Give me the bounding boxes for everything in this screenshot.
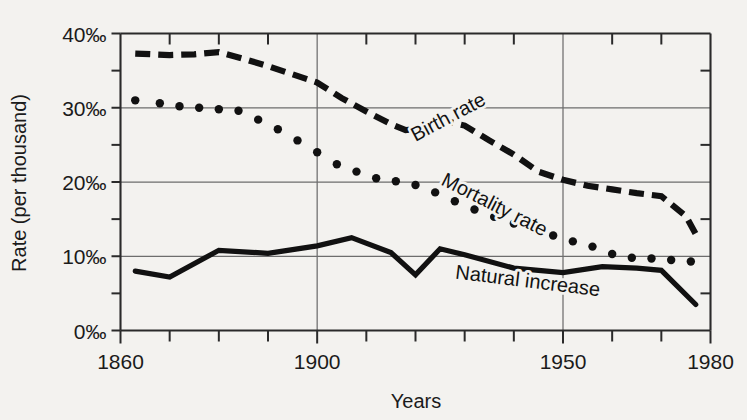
y-tick-label: 20‰ — [62, 171, 106, 194]
chart-figure: 0‰10‰20‰30‰40‰ 1860190019501980 Birth ra… — [0, 0, 747, 420]
data-point — [392, 177, 400, 185]
data-point — [293, 136, 301, 144]
data-point — [549, 231, 557, 239]
x-tick-label: 1900 — [294, 350, 341, 373]
data-point — [411, 181, 419, 189]
data-point — [588, 242, 596, 250]
data-point — [608, 250, 616, 258]
demographic-transition-chart: 0‰10‰20‰30‰40‰ 1860190019501980 Birth ra… — [0, 0, 747, 420]
data-point — [254, 115, 262, 123]
data-point — [628, 254, 636, 262]
data-point — [451, 197, 459, 205]
data-point — [274, 125, 282, 133]
data-point — [667, 256, 675, 264]
x-tick-label: 1860 — [97, 350, 144, 373]
data-point — [215, 105, 223, 113]
y-tick-label: 0‰ — [74, 320, 107, 343]
data-point — [131, 96, 139, 104]
data-point — [647, 254, 655, 262]
data-point — [352, 167, 360, 175]
data-point — [569, 237, 577, 245]
data-point — [333, 160, 341, 168]
data-point — [195, 104, 203, 112]
y-axis-title: Rate (per thousand) — [8, 94, 30, 272]
data-point — [687, 257, 695, 265]
data-point — [156, 99, 164, 107]
x-tick-label: 1950 — [540, 350, 587, 373]
y-tick-label: 40‰ — [62, 23, 106, 46]
y-tick-label: 30‰ — [62, 97, 106, 120]
data-point — [431, 188, 439, 196]
x-axis-title: Years — [391, 390, 441, 412]
y-tick-label: 10‰ — [62, 245, 106, 268]
x-tick-label: 1980 — [687, 350, 734, 373]
data-point — [175, 102, 183, 110]
data-point — [372, 174, 380, 182]
data-point — [234, 107, 242, 115]
data-point — [313, 148, 321, 156]
